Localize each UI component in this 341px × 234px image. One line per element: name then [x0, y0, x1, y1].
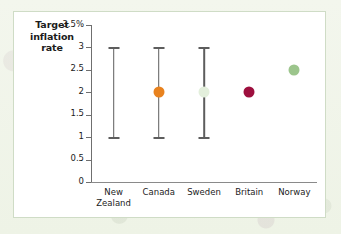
plot-area: 3.5%32.521.510.50 New ZealandCanadaSwede… — [91, 25, 317, 203]
x-axis-category-label: Norway — [278, 187, 310, 198]
x-axis-line — [91, 182, 317, 183]
range-bar — [113, 47, 115, 137]
y-axis-tick-label: 1 — [79, 131, 84, 141]
y-axis-tick-label: 0 — [79, 176, 84, 186]
y-axis-tick-label: 3 — [79, 41, 84, 51]
y-axis-tick-mark — [86, 137, 91, 138]
range-bar-cap — [153, 137, 164, 139]
y-axis-line — [91, 25, 92, 183]
y-axis-tick-mark — [86, 25, 91, 26]
data-point-marker — [199, 87, 210, 98]
y-axis-tick-label: 2.5 — [70, 63, 84, 73]
range-bar-cap — [108, 137, 119, 139]
y-axis-tick-label: 0.5 — [70, 153, 84, 163]
range-bar-cap — [199, 137, 210, 139]
x-axis-category-label: Canada — [143, 187, 175, 198]
chart-panel: Target inflation rate 3.5%32.521.510.50 … — [13, 11, 326, 218]
range-bar-cap — [199, 47, 210, 49]
y-axis-tick-mark — [86, 115, 91, 116]
chart-page: Target inflation rate 3.5%32.521.510.50 … — [0, 0, 341, 234]
y-axis-tick-mark — [86, 160, 91, 161]
data-point-marker — [153, 87, 164, 98]
y-axis-tick-label: 2 — [79, 86, 84, 96]
data-point-marker — [289, 64, 300, 75]
x-axis-category-label: Britain — [235, 187, 263, 198]
range-bar-cap — [108, 47, 119, 49]
range-bar-cap — [153, 47, 164, 49]
y-axis-tick-mark — [86, 47, 91, 48]
y-axis-tick-mark — [86, 70, 91, 71]
y-axis-tick-mark — [86, 182, 91, 183]
y-axis-tick-label: 1.5 — [70, 108, 84, 118]
y-axis-tick-label: 3.5% — [62, 19, 84, 29]
x-axis-category-label: Sweden — [187, 187, 221, 198]
y-axis-tick-mark — [86, 92, 91, 93]
x-axis-category-label: New Zealand — [96, 187, 131, 208]
data-point-marker — [244, 87, 255, 98]
